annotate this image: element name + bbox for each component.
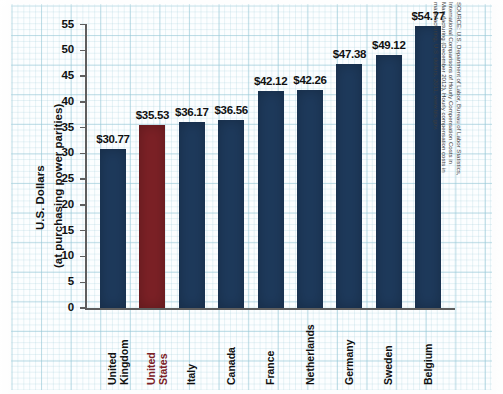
- x-axis-label-line1: United: [106, 352, 118, 385]
- y-axis-title-line1: U.S. Dollars: [34, 165, 46, 230]
- bar-value-label: $36.56: [215, 104, 248, 116]
- y-axis-tick: [80, 204, 85, 205]
- bar-canada[interactable]: [218, 120, 244, 308]
- x-axis-label-line1: Canada: [225, 347, 237, 385]
- x-axis-label-united: UnitedKingdom: [107, 340, 130, 386]
- x-axis-label-germany: Germany: [344, 339, 356, 385]
- x-axis-label-line1: Belgium: [422, 344, 434, 385]
- bar-sweden[interactable]: [376, 55, 402, 308]
- x-axis-label-line2: States: [158, 352, 170, 385]
- y-axis-tick: [80, 307, 85, 308]
- x-axis-label-line1: Netherlands: [304, 324, 316, 385]
- x-axis-label-sweden: Sweden: [383, 345, 395, 385]
- y-axis-tick-label: 50: [0, 43, 74, 55]
- x-axis-label-line2: Kingdom: [119, 340, 131, 386]
- y-axis-tick: [80, 230, 85, 231]
- x-axis-label-belgium: Belgium: [423, 344, 435, 385]
- bar-italy[interactable]: [179, 122, 205, 308]
- source-note: SOURCE: U.S. Department of Labor, Bureau…: [433, 2, 463, 202]
- y-axis-tick: [80, 50, 85, 51]
- y-axis-tick: [80, 178, 85, 179]
- bar-united-kingdom[interactable]: [100, 149, 126, 308]
- x-axis-label-line1: Sweden: [382, 345, 394, 385]
- bar-value-label: $42.26: [293, 74, 326, 86]
- y-axis-tick-label: 55: [0, 18, 74, 30]
- x-axis-label-line1: France: [264, 351, 276, 385]
- x-axis-label-netherlands: Netherlands: [305, 324, 317, 385]
- y-axis-title-line2: (at purchasing power parities): [52, 104, 64, 268]
- bar-united-states[interactable]: [139, 125, 165, 308]
- bar-germany[interactable]: [336, 64, 362, 308]
- bar-value-label: $49.12: [372, 39, 405, 51]
- x-axis-label-italy: Italy: [186, 364, 198, 385]
- y-axis-line: [85, 24, 87, 309]
- bar-netherlands[interactable]: [297, 90, 323, 308]
- x-axis-label-united: UnitedStates: [146, 352, 169, 385]
- y-axis-tick: [80, 24, 85, 25]
- x-axis-label-france: France: [265, 351, 277, 385]
- plot-area: 0510152025303540455055 U.S. Dollars (at …: [0, 0, 503, 394]
- y-axis-tick: [80, 256, 85, 257]
- y-axis-tick: [80, 127, 85, 128]
- x-axis-line: [85, 308, 455, 310]
- x-axis-label-line1: Italy: [185, 364, 197, 385]
- chart-page: 0510152025303540455055 U.S. Dollars (at …: [0, 0, 503, 394]
- y-axis-tick-label: 0: [0, 301, 74, 313]
- x-axis-label-canada: Canada: [226, 347, 238, 385]
- y-axis-tick: [80, 282, 85, 283]
- y-axis-tick-label: 45: [0, 69, 74, 81]
- bar-value-label: $47.38: [333, 48, 366, 60]
- x-axis-label-line1: United: [145, 352, 157, 385]
- y-axis-tick-label: 5: [0, 275, 74, 287]
- x-axis-label-line1: Germany: [343, 339, 355, 385]
- bar-value-label: $30.77: [96, 133, 129, 145]
- bar-value-label: $42.12: [254, 75, 287, 87]
- y-axis-tick: [80, 101, 85, 102]
- y-axis-tick: [80, 153, 85, 154]
- bar-value-label: $35.53: [136, 109, 169, 121]
- bar-france[interactable]: [258, 91, 284, 308]
- y-axis-tick: [80, 75, 85, 76]
- bar-value-label: $36.17: [175, 106, 208, 118]
